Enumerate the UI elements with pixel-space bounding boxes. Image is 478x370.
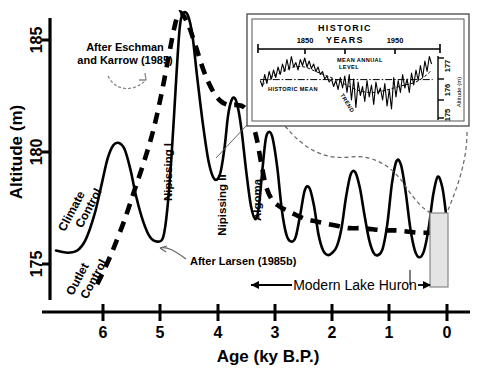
lake-level-figure: 185 180 175 Altitude (m) 6 5 4 3 2 1 0 A… <box>0 0 478 370</box>
x-tick-2: 2 <box>328 324 337 341</box>
y-axis: 185 180 175 Altitude (m) <box>7 18 51 300</box>
inset-mean-annual-label-line2: LEVEL <box>339 64 359 70</box>
inset-mean-annual-label-line1: MEAN ANNUAL <box>337 57 383 63</box>
phase-label-algoma: Algoma <box>251 178 263 221</box>
modern-lake-huron-annotation: Modern Lake Huron <box>251 270 431 293</box>
inset-y-tick-175: 175 <box>443 109 452 122</box>
inset-title-line1: HISTORIC <box>318 23 372 33</box>
present-day-range-box <box>430 213 448 287</box>
y-tick-175: 175 <box>28 251 45 278</box>
inset-historic-mean-label: HISTORIC MEAN <box>268 86 318 92</box>
x-tick-5: 5 <box>156 324 165 341</box>
eschman-karrow-line2: and Karrow (1985) <box>77 54 173 66</box>
inset-x-tick-1850: 1850 <box>297 36 314 45</box>
y-tick-180: 180 <box>28 139 45 166</box>
historic-years-inset: HISTORIC YEARS 1850 1950 177 176 175 Alt… <box>247 14 469 126</box>
eschman-karrow-annotation: After Eschman and Karrow (1985) <box>77 41 173 89</box>
phase-label-nipissing-2: Nipissing II <box>216 174 228 235</box>
inset-y-tick-176: 176 <box>443 84 452 97</box>
x-axis: 6 5 4 3 2 1 0 Age (ky B.P.) <box>42 304 470 366</box>
x-tick-0: 0 <box>443 324 452 341</box>
y-tick-185: 185 <box>28 27 45 54</box>
chart-svg: 185 180 175 Altitude (m) 6 5 4 3 2 1 0 A… <box>0 0 478 370</box>
inset-x-tick-1950: 1950 <box>387 36 404 45</box>
x-axis-label: Age (ky B.P.) <box>217 347 320 366</box>
modern-lake-huron-label: Modern Lake Huron <box>293 277 417 293</box>
climate-control-label: Climate Control <box>55 186 105 234</box>
inset-y-tick-177: 177 <box>443 60 452 73</box>
phase-label-nipissing-1: Nipissing I <box>162 143 174 201</box>
x-tick-4: 4 <box>214 324 223 341</box>
inset-title-line2: YEARS <box>326 35 364 45</box>
larsen-label: After Larsen (1985b) <box>190 255 297 267</box>
y-axis-label: Altitude (m) <box>7 105 26 199</box>
inset-y-axis-label: Altitude (m) <box>456 77 462 108</box>
outlet-control-label: Outlet Control <box>63 257 110 301</box>
x-tick-6: 6 <box>99 324 108 341</box>
x-tick-1: 1 <box>385 324 394 341</box>
larsen-annotation: After Larsen (1985b) <box>160 246 297 267</box>
x-tick-3: 3 <box>271 324 280 341</box>
eschman-karrow-line1: After Eschman <box>86 41 164 53</box>
